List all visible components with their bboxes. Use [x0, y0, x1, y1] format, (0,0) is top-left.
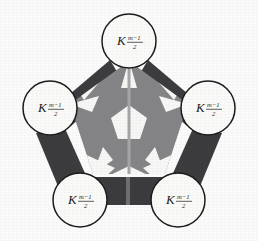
node-lower-right-label-numerator: m−1 [177, 193, 190, 200]
node-lower-right[interactable]: K m−1 2 [151, 173, 205, 227]
node-lower-left-label-base: K [67, 192, 78, 207]
node-lower-right-circle [151, 173, 205, 227]
node-lower-left-circle [53, 173, 107, 227]
node-upper-left-label-base: K [37, 100, 48, 115]
node-upper-left[interactable]: K m−1 2 [23, 81, 77, 135]
node-top-label-numerator: m−1 [128, 34, 141, 41]
node-upper-right-label-numerator: m−1 [207, 101, 220, 108]
node-lower-right-label-base: K [165, 192, 176, 207]
node-lower-left-label-numerator: m−1 [79, 193, 92, 200]
node-upper-left-circle [23, 81, 77, 135]
node-upper-right-circle [181, 81, 235, 135]
node-upper-right[interactable]: K m−1 2 [181, 81, 235, 135]
node-upper-left-label-numerator: m−1 [49, 101, 62, 108]
node-top-label-base: K [116, 33, 127, 48]
node-lower-left[interactable]: K m−1 2 [53, 173, 107, 227]
node-top-circle [102, 14, 156, 68]
pentagon-graph-figure: K m−1 2 K m−1 2 K m−1 2 [0, 0, 258, 241]
figure-container: K m−1 2 K m−1 2 K m−1 2 [0, 0, 258, 241]
node-upper-right-label-base: K [195, 100, 206, 115]
vertical-seam [128, 61, 131, 174]
node-top[interactable]: K m−1 2 [102, 14, 156, 68]
